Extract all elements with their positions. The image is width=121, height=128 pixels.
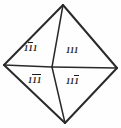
sector-label-lower-left: 111: [28, 75, 41, 84]
sector-label-upper-left: 111: [24, 43, 37, 52]
edge-top-right: [63, 5, 117, 68]
index-digit-3: 1: [33, 43, 37, 53]
index-digit-3-barred: 1: [37, 75, 41, 84]
divider-horizontal-left: [4, 65, 52, 67]
divider-vertical-lower: [52, 67, 65, 123]
sector-label-lower-right: 111: [66, 76, 79, 85]
crystal-index-diagram: 111 111 111 111: [0, 0, 121, 128]
diamond-outline-svg: [0, 0, 121, 128]
index-digit-3-barred: 1: [74, 76, 78, 85]
divider-horizontal-right: [52, 67, 117, 68]
sector-label-upper-right: 111: [66, 46, 78, 55]
index-digit-2-barred: 1: [28, 43, 32, 52]
index-digit-3: 1: [74, 45, 78, 55]
